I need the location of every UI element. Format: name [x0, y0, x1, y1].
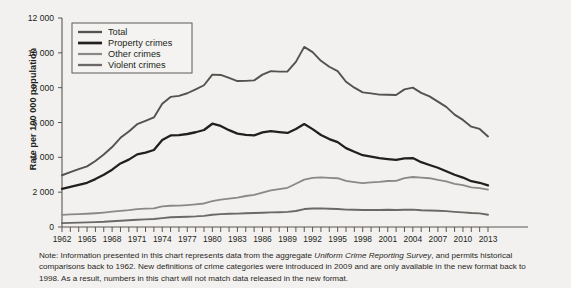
y-tick-label: 6 000	[32, 118, 54, 128]
x-tick-label: 2004	[404, 234, 423, 244]
x-tick-label: 1995	[328, 234, 347, 244]
x-tick-label: 1974	[153, 234, 172, 244]
y-tick-label: 4 000	[32, 152, 54, 162]
chart-plot-area: Rate per 100 000 population 02 0004 0006…	[0, 0, 571, 246]
x-tick-label: 1998	[353, 234, 372, 244]
x-tick-label: 1968	[103, 234, 122, 244]
x-tick-label: 2001	[378, 234, 397, 244]
x-tick-label: 1983	[228, 234, 247, 244]
legend-label-other-crimes: Other crimes	[108, 49, 161, 59]
x-tick-label: 2013	[479, 234, 498, 244]
y-tick-label: 0	[49, 222, 54, 232]
x-tick-label: 1977	[178, 234, 197, 244]
legend-label-total: Total	[108, 27, 127, 37]
x-tick-label: 1962	[53, 234, 72, 244]
legend-label-property-crimes: Property crimes	[108, 38, 173, 48]
note-survey-name: Uniform Crime Reporting Survey	[314, 251, 431, 260]
x-tick-label: 1965	[78, 234, 97, 244]
y-tick-label: 10 000	[28, 48, 55, 58]
x-tick-label: 2010	[454, 234, 473, 244]
y-tick-label: 8 000	[32, 83, 54, 93]
x-tick-label: 2007	[429, 234, 448, 244]
y-tick-label: 2 000	[32, 187, 54, 197]
note-text-part1: Note: Information presented in this char…	[39, 251, 314, 260]
x-tick-label: 1992	[303, 234, 322, 244]
series-line-other-crimes	[62, 177, 488, 215]
crime-rate-chart-figure: Rate per 100 000 population 02 0004 0006…	[0, 0, 571, 288]
x-tick-label: 1971	[128, 234, 147, 244]
x-tick-label: 1986	[253, 234, 272, 244]
chart-note: Note: Information presented in this char…	[39, 250, 539, 284]
x-tick-label: 1989	[278, 234, 297, 244]
chart-canvas: 02 0004 0006 0008 00010 00012 0001962196…	[0, 0, 571, 246]
y-tick-label: 12 000	[28, 13, 55, 23]
x-tick-label: 1980	[203, 234, 222, 244]
legend-label-violent-crimes: Violent crimes	[108, 60, 166, 70]
